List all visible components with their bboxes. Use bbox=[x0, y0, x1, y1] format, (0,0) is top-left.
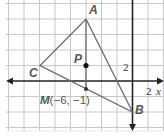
point-p bbox=[83, 63, 88, 68]
m-letter: M bbox=[40, 94, 50, 106]
x-tick-label-2: 2 bbox=[146, 85, 152, 97]
y-tick-label-2: 2 bbox=[123, 61, 129, 73]
vertex-label-a: A bbox=[88, 3, 98, 17]
vertex-label-b: B bbox=[135, 103, 144, 117]
point-label-m: M(−6, −1) bbox=[40, 94, 90, 106]
coordinate-diagram: A B C P M(−6, −1) 2 2 x bbox=[0, 0, 164, 137]
x-axis-label: x bbox=[155, 85, 161, 97]
vertex-label-c: C bbox=[29, 66, 38, 80]
point-label-p: P bbox=[74, 52, 83, 66]
m-coords: (−6, −1) bbox=[50, 94, 90, 106]
point-m bbox=[84, 87, 88, 91]
